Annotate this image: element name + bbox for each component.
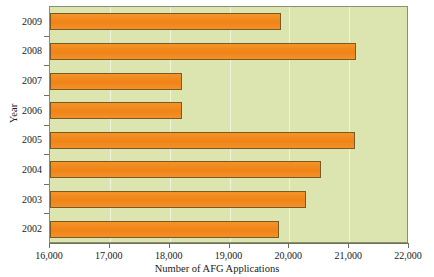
- x-axis-tick: [49, 243, 50, 248]
- x-tick-label-21000: 21,000: [334, 250, 362, 261]
- x-axis-tick: [408, 243, 409, 248]
- y-tick-label-2009: 2009: [0, 15, 42, 26]
- y-axis-tick: [44, 125, 49, 126]
- x-axis-tick: [109, 243, 110, 248]
- y-axis-tick: [44, 184, 49, 185]
- x-tick-label-16000: 16,000: [35, 250, 63, 261]
- x-tick-label-20000: 20,000: [275, 250, 303, 261]
- y-axis-tick: [44, 213, 49, 214]
- bar-row: [50, 7, 409, 37]
- bar-row: [50, 155, 409, 185]
- x-axis-tick: [169, 243, 170, 248]
- x-tick-label-19000: 19,000: [215, 250, 243, 261]
- chart-page: Number of AFG Applications Year 20092008…: [0, 0, 434, 277]
- bar-row: [50, 96, 409, 126]
- y-axis-tick: [44, 154, 49, 155]
- bar-2003[interactable]: [50, 191, 306, 208]
- y-axis-tick: [44, 65, 49, 66]
- x-axis-tick: [229, 243, 230, 248]
- y-tick-label-2004: 2004: [0, 163, 42, 174]
- x-tick-label-18000: 18,000: [155, 250, 183, 261]
- bar-row: [50, 66, 409, 96]
- bar-2006[interactable]: [50, 102, 182, 119]
- y-tick-label-2005: 2005: [0, 134, 42, 145]
- bar-row: [50, 185, 409, 215]
- y-tick-label-2003: 2003: [0, 193, 42, 204]
- bar-2004[interactable]: [50, 161, 321, 178]
- y-tick-label-2008: 2008: [0, 45, 42, 56]
- bar-2007[interactable]: [50, 73, 182, 90]
- x-tick-label-22000: 22,000: [394, 250, 422, 261]
- bar-2005[interactable]: [50, 132, 355, 149]
- plot-area: [49, 6, 408, 243]
- x-axis-tick: [348, 243, 349, 248]
- y-tick-label-2006: 2006: [0, 104, 42, 115]
- bar-2009[interactable]: [50, 13, 281, 30]
- bar-row: [50, 126, 409, 156]
- bar-row: [50, 214, 409, 244]
- bar-2008[interactable]: [50, 43, 356, 60]
- bar-2002[interactable]: [50, 221, 279, 238]
- y-axis-tick: [44, 36, 49, 37]
- y-axis-tick: [44, 95, 49, 96]
- x-axis-title: Number of AFG Applications: [0, 263, 434, 274]
- x-axis-tick: [288, 243, 289, 248]
- x-tick-label-17000: 17,000: [95, 250, 123, 261]
- bar-row: [50, 37, 409, 67]
- y-tick-label-2002: 2002: [0, 223, 42, 234]
- y-tick-label-2007: 2007: [0, 75, 42, 86]
